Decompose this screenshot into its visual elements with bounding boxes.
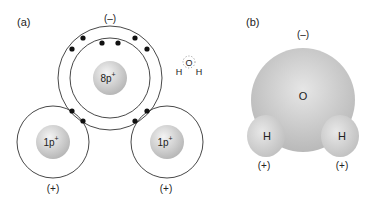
charge-right: (+) (336, 160, 349, 171)
h-left-label: H (263, 130, 271, 142)
panel-b-label: (b) (246, 16, 259, 28)
oxygen-label: O (299, 90, 308, 102)
inset-h-left: H (176, 67, 183, 77)
panel-b: (b) (–) O H H (+) (+) (246, 16, 359, 171)
h-right-label: H (338, 130, 346, 142)
water-molecule-diagram: (a) (–) 8p+ 1p+ (+) 1p+ (+) O H H (b) (0, 0, 371, 203)
charge-top: (–) (297, 29, 309, 40)
inset-h-right: H (196, 67, 203, 77)
charge-left: (+) (258, 160, 271, 171)
inset-o: O (185, 58, 192, 68)
oxygen-charge: (–) (104, 13, 116, 24)
panel-a: (a) (–) 8p+ 1p+ (+) 1p+ (+) O H H (17, 13, 203, 194)
hydrogen-right-charge: (+) (160, 183, 173, 194)
hydrogen-left-charge: (+) (47, 183, 60, 194)
panel-a-label: (a) (17, 16, 30, 28)
water-inset: O H H (176, 56, 203, 77)
